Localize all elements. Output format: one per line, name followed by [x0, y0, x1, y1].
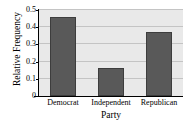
bar-democrat — [50, 17, 76, 96]
x-axis-tick-label: Independent — [87, 98, 135, 108]
y-axis-tick-zero — [34, 96, 39, 97]
y-axis-tick-label: 0.2 — [14, 58, 36, 66]
x-axis-title: Party — [39, 110, 183, 120]
y-axis-tick-labels: 00.10.20.30.40.5 — [14, 6, 36, 98]
x-axis-line — [38, 96, 183, 97]
x-axis-tick-label: Democrat — [39, 98, 87, 108]
bar-chart-figure: Relative Frequency 00.10.20.30.40.5 Demo… — [0, 0, 187, 131]
x-axis-tick-labels: DemocratIndependentRepublican — [39, 98, 183, 110]
plot-area — [39, 10, 183, 96]
gridline — [39, 9, 183, 10]
y-axis-tick-label: 0.5 — [14, 6, 36, 14]
y-axis-tick-label: 0.3 — [14, 40, 36, 48]
y-axis-tick-label: 0 — [14, 92, 36, 100]
bar-independent — [98, 68, 124, 96]
y-axis-tick-label: 0.4 — [14, 23, 36, 31]
bar-republican — [146, 32, 172, 96]
y-axis-tick-label: 0.1 — [14, 75, 36, 83]
x-axis-tick-label: Republican — [135, 98, 183, 108]
